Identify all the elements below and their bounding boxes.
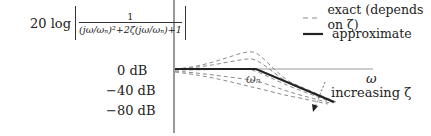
abs-bar-right (185, 6, 186, 40)
ytick-minus40db: −40 dB (106, 84, 155, 97)
arrow-head-icon (312, 104, 318, 112)
y-axis-label: 20 log 1 (jω/ωₙ)²+2ζ(jω/ωₙ)+1 (30, 6, 186, 40)
ytick-0db: 0 dB (117, 64, 147, 77)
legend-item-approximate: approximate (302, 25, 431, 42)
ylabel-denominator: (jω/ωₙ)²+2ζ(jω/ωₙ)+1 (79, 22, 182, 35)
legend: exact (depends on ζ) approximate (302, 8, 431, 42)
legend-item-exact: exact (depends on ζ) (302, 8, 431, 25)
solid-line-icon (302, 30, 324, 38)
dashed-line-icon (302, 13, 319, 21)
ylabel-fraction: 1 (jω/ωₙ)²+2ζ(jω/ωₙ)+1 (76, 11, 185, 35)
increasing-zeta-label: increasing ζ (331, 86, 411, 99)
x-axis-label: ω (366, 72, 377, 85)
ylabel-prefix: 20 log (30, 16, 71, 31)
ylabel-numerator: 1 (127, 11, 133, 22)
legend-label-approximate: approximate (332, 26, 412, 41)
corner-frequency-label: ωₙ (246, 73, 261, 85)
ytick-minus80db: −80 dB (106, 104, 155, 117)
